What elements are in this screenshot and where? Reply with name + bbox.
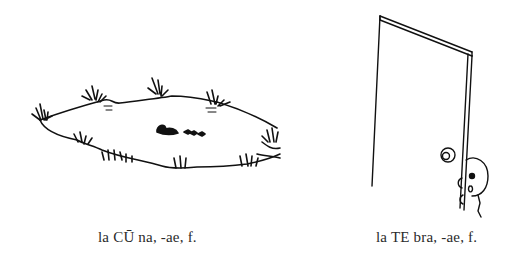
caption-lacuna: la CŪ na, -ae, f. — [98, 229, 197, 246]
figure-lacuna — [22, 70, 284, 182]
figure-latebra — [360, 10, 490, 220]
girl-hiding-behind-door-icon — [360, 10, 490, 220]
caption-latebra: la TE bra, -ae, f. — [376, 229, 477, 246]
pond-with-ducks-icon — [22, 70, 284, 182]
